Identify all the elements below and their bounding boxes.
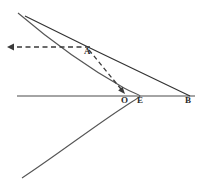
point-label-o: O <box>121 96 128 105</box>
incoming-ray-arrowhead-icon <box>7 44 14 51</box>
figure-canvas <box>0 0 205 185</box>
geometry-figure: A O E B <box>0 0 205 185</box>
point-label-a: A <box>84 47 91 56</box>
point-label-b: B <box>185 96 191 105</box>
tangent-line <box>25 16 190 96</box>
point-label-e: E <box>137 96 143 105</box>
